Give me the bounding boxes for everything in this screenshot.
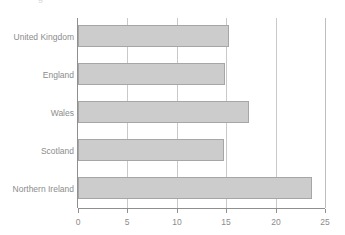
category-label: Northern Ireland: [0, 184, 74, 194]
bar-chart: g United KingdomEnglandWalesScotlandNort…: [0, 0, 345, 235]
bar-row: [78, 170, 325, 208]
bar-row: [78, 18, 325, 56]
category-label: Wales: [0, 108, 74, 118]
bar-row: [78, 56, 325, 94]
gridline: [325, 18, 326, 208]
tick-mark: [325, 209, 326, 213]
tick-mark: [127, 209, 128, 213]
category-label: Scotland: [0, 146, 74, 156]
bar: [78, 63, 225, 85]
tick-mark: [226, 209, 227, 213]
tick-label: 10: [172, 217, 181, 227]
bar: [78, 101, 249, 123]
tick-mark: [177, 209, 178, 213]
clipped-title-remnant: g: [38, 0, 43, 3]
bar: [78, 177, 312, 199]
bar: [78, 25, 229, 47]
plot-area: [78, 18, 325, 208]
tick-label: 5: [125, 217, 130, 227]
tick-label: 20: [271, 217, 280, 227]
category-label: England: [0, 70, 74, 80]
bar: [78, 139, 224, 161]
tick-label: 0: [76, 217, 81, 227]
bar-row: [78, 94, 325, 132]
bar-row: [78, 132, 325, 170]
value-axis-ticks: 0510152025: [0, 209, 345, 233]
tick-label: 15: [221, 217, 230, 227]
category-label: United Kingdom: [0, 32, 74, 42]
tick-mark: [276, 209, 277, 213]
tick-label: 25: [320, 217, 329, 227]
y-axis-line: [77, 18, 78, 208]
category-axis-labels: United KingdomEnglandWalesScotlandNorthe…: [0, 18, 74, 208]
tick-mark: [78, 209, 79, 213]
